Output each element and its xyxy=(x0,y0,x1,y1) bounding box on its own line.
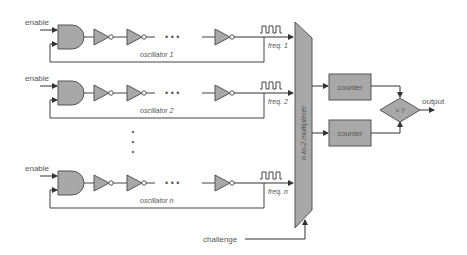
ellipsis: • • • xyxy=(165,32,179,42)
enable-label: enable xyxy=(25,74,50,83)
freq-label: freq. 1 xyxy=(268,42,288,50)
enable-label: enable xyxy=(25,18,50,27)
enable-label: enable xyxy=(25,164,50,173)
challenge-label: challenge xyxy=(203,235,238,244)
inverter-icon xyxy=(127,29,142,45)
oscillator-label: oscillator 1 xyxy=(140,51,174,58)
and-gate-icon xyxy=(58,81,84,105)
inverter-icon xyxy=(94,175,109,191)
vertical-ellipsis xyxy=(132,131,135,154)
square-wave-icon xyxy=(260,82,282,89)
freq-label: freq. n xyxy=(268,188,288,196)
oscillator-row-n: enable • • • freq. n oscillator n xyxy=(25,164,293,208)
inverter-icon xyxy=(127,85,142,101)
square-wave-icon xyxy=(260,26,282,33)
ro-puf-diagram: enable • • • freq. 1 oscillator 1 enable… xyxy=(0,0,467,255)
inverter-icon xyxy=(215,175,230,191)
square-wave-icon xyxy=(260,172,282,179)
ellipsis: • • • xyxy=(165,88,179,98)
inverter-icon xyxy=(215,29,230,45)
counter-label: counter xyxy=(337,129,363,138)
inverter-icon xyxy=(94,85,109,101)
and-gate-icon xyxy=(58,25,84,49)
and-gate-icon xyxy=(58,171,84,195)
inverter-icon xyxy=(94,29,109,45)
inverter-icon xyxy=(127,175,142,191)
output-label: output xyxy=(422,97,445,106)
oscillator-row-1: enable • • • freq. 1 oscillator 1 xyxy=(25,18,293,62)
oscillator-row-2: enable • • • freq. 2 oscillator 2 xyxy=(25,74,293,118)
multiplexer-label: n-to-2 multiplexer xyxy=(300,105,308,160)
freq-label: freq. 2 xyxy=(268,98,288,106)
comparator-label: > ? xyxy=(395,107,405,114)
ellipsis: • • • xyxy=(165,178,179,188)
inverter-icon xyxy=(215,85,230,101)
oscillator-label: oscillator n xyxy=(140,197,174,204)
counter-label: counter xyxy=(337,83,363,92)
oscillator-label: oscillator 2 xyxy=(140,107,174,114)
